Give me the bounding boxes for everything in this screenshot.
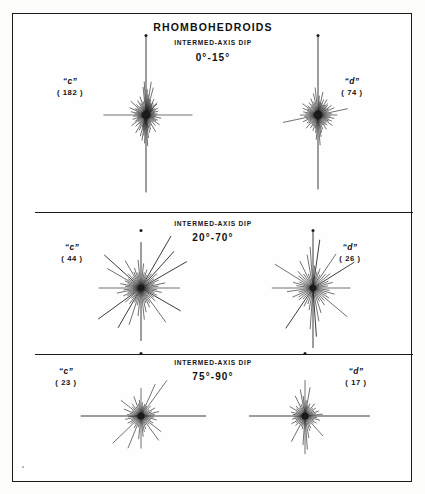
north-reference-dot [145,34,148,37]
rose-centre [138,285,145,292]
rose-diagram-c-20-70 [81,228,201,348]
rose-centre [310,285,317,292]
rose-rays [249,380,370,454]
north-reference-dot [304,352,307,355]
north-reference-dot [140,229,143,232]
north-reference-dot [312,229,315,232]
rose-diagram-d-0-15 [238,30,398,200]
rose-ray [141,384,155,416]
rose-diagram-d-75-90 [235,354,375,484]
north-reference-dot [317,34,320,37]
rose-centre [301,412,308,419]
rose-centre [137,412,144,419]
rose-ray [141,380,167,416]
panel-middle-subhead: INTERMED-AXIS DIP [13,220,413,227]
north-reference-dot [140,352,143,355]
figure-root: RHOMBOHEDROIDS INTERMED-AXIS DIP 0°-15° … [0,0,425,494]
rose-centre [142,111,151,120]
rose-ray [313,288,347,317]
rose-ray [118,288,141,328]
rose-diagram-c-75-90 [71,354,211,484]
rose-ray [313,288,316,337]
plate-frame: RHOMBOHEDROIDS INTERMED-AXIS DIP 0°-15° … [12,13,412,482]
rose-centre [314,111,323,120]
rose-diagram-d-20-70 [253,228,373,348]
rose-diagram-c-0-15 [66,30,226,200]
rose-ray [141,288,181,311]
rose-ray [141,236,171,288]
rose-ray [310,288,313,329]
rose-ray [313,240,320,288]
rose-ray [113,416,141,443]
panel-divider-top [35,212,413,213]
rose-ray [310,247,313,288]
rose-ray [141,262,187,288]
rose-ray [141,251,174,288]
rose-ray [313,262,354,288]
scan-speck [22,466,24,468]
